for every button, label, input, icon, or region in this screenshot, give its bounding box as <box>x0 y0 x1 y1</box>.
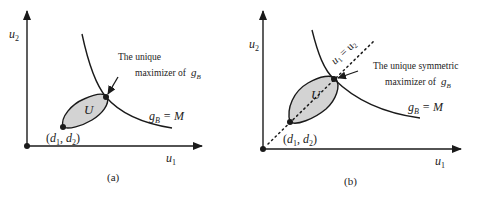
annotation-line-1: The unique <box>118 52 161 62</box>
region-label-u: U <box>311 87 322 102</box>
y-axis-label: u2 <box>9 27 19 43</box>
annotation-line-2: maximizer ofgB <box>135 66 201 81</box>
disagreement-point <box>287 119 293 125</box>
origin-point <box>260 146 266 152</box>
disagreement-point <box>60 124 66 130</box>
figure: u2 u1 U (d1, d2) gB = M The unique maxim… <box>0 0 478 197</box>
curve-label: gB = M <box>408 100 444 116</box>
caption-a: (a) <box>107 171 120 184</box>
x-axis-label: u1 <box>166 151 176 167</box>
y-axis-label: u2 <box>249 37 259 53</box>
curve-label: gB = M <box>149 109 185 125</box>
caption-b: (b) <box>344 175 357 188</box>
x-axis-label: u1 <box>435 154 445 170</box>
panel-a: u2 u1 U (d1, d2) gB = M The unique maxim… <box>9 11 202 184</box>
symmetric-maximizer-point <box>331 76 337 82</box>
symmetry-line-label: u1 = u2 <box>328 37 360 68</box>
annotation-arrow <box>338 71 358 78</box>
origin-point <box>24 143 30 149</box>
panel-b: u2 u1 U u1 = u2 (d1, d2) gB = M The uniq… <box>249 11 461 188</box>
disagreement-label: (d1, d2) <box>46 131 80 147</box>
region-label-u: U <box>84 102 95 117</box>
maximizer-point <box>103 94 109 100</box>
annotation-line-1: The unique symmetric <box>373 61 458 71</box>
symmetry-line <box>268 40 375 144</box>
disagreement-label: (d1, d2) <box>283 132 317 148</box>
annotation-arrow <box>108 77 118 94</box>
annotation-line-2: maximizer ofgB <box>385 75 451 90</box>
